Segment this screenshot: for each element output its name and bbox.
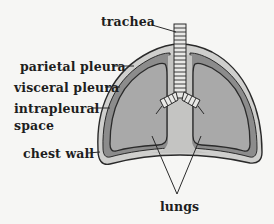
label-parietal-pleura: parietal pleura [20, 59, 126, 74]
right-lung [193, 63, 250, 151]
label-intrapleural-space-line2: space [14, 118, 54, 133]
label-trachea: trachea [101, 14, 155, 29]
label-lungs: lungs [160, 199, 199, 214]
label-intrapleural-space-line1: intrapleural [14, 101, 99, 116]
label-chest-wall: chest wall [23, 146, 94, 161]
trachea-shape [174, 24, 186, 98]
lung-pleura-diagram: trachea parietal pleura visceral pleura … [0, 0, 274, 224]
label-visceral-pleura: visceral pleura [14, 80, 119, 95]
leader-trachea [152, 25, 176, 32]
